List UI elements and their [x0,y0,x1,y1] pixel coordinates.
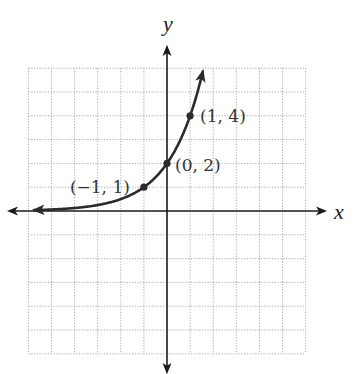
point-label: (1, 4) [200,106,246,126]
data-point [163,160,170,167]
point-label: (−1, 1) [70,177,130,197]
data-points: (−1, 1)(0, 2)(1, 4) [70,106,246,197]
data-point [187,112,194,119]
x-axis-label: x [333,199,344,224]
y-axis-label: y [161,11,173,36]
exponential-graph: (−1, 1)(0, 2)(1, 4) x y [0,0,358,374]
point-label: (0, 2) [175,155,221,175]
data-point [140,184,147,191]
